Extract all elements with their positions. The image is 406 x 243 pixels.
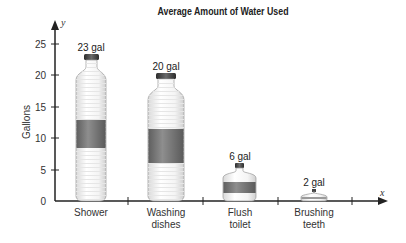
category-label-washing: Washing	[147, 207, 186, 218]
bar-brushing-teeth-bottle-icon: 2 gal	[301, 177, 327, 201]
x-axis-arrow-icon	[378, 197, 388, 205]
y-tick-label: 20	[35, 70, 47, 81]
category-label-brushing: Brushing	[294, 207, 333, 218]
chart-canvas: y 25 20 15 10 5 0 Gallons x Shower Washi…	[0, 0, 406, 243]
bar-flush-toilet-bottle-icon: 6 gal	[223, 151, 256, 201]
category-label-shower: Shower	[74, 207, 109, 218]
y-tick-label: 0	[40, 196, 46, 207]
category-label-flush: Flush	[228, 207, 252, 218]
category-label-brushing-2: teeth	[303, 219, 325, 230]
y-tick-label: 25	[35, 39, 47, 50]
y-axis-letter: y	[60, 17, 66, 28]
category-label-washing-2: dishes	[152, 219, 181, 230]
y-axis-label: Gallons	[21, 105, 32, 139]
y-tick-label: 15	[35, 102, 47, 113]
y-tick-label: 5	[40, 165, 46, 176]
y-axis: y 25 20 15 10 5 0 Gallons	[21, 17, 66, 207]
bar-shower-bottle-icon: 23 gal	[76, 42, 106, 201]
y-tick-label: 10	[35, 133, 47, 144]
value-label-flush: 6 gal	[229, 151, 251, 162]
value-label-shower: 23 gal	[77, 42, 104, 53]
category-label-flush-2: toilet	[229, 219, 250, 230]
value-label-brushing: 2 gal	[303, 177, 325, 188]
bar-washing-dishes-bottle-icon: 20 gal	[148, 61, 184, 201]
x-axis-letter: x	[379, 187, 385, 198]
value-label-washing: 20 gal	[152, 61, 179, 72]
y-axis-arrow-icon	[51, 20, 59, 30]
